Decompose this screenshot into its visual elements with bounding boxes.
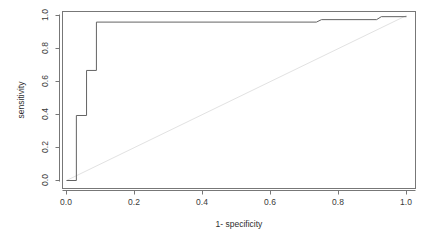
y-tick-label-4: 0.8 xyxy=(40,42,50,54)
x-tick-label-3: 0.6 xyxy=(264,197,276,207)
y-tick-label-0: 0.0 xyxy=(40,174,50,186)
y-tick-label-5: 1.0 xyxy=(40,9,50,21)
plot-canvas: 0.0 0.2 0.4 0.6 0.8 1.0 0.0 0.2 0.4 0.6 … xyxy=(0,0,434,236)
x-tick-label-5: 1.0 xyxy=(400,197,412,207)
x-tick-label-0: 0.0 xyxy=(60,197,72,207)
x-tick-labels: 0.0 0.2 0.4 0.6 0.8 1.0 xyxy=(60,197,412,207)
x-tick-label-4: 0.8 xyxy=(332,197,344,207)
y-axis-title: sensitivity xyxy=(16,81,26,119)
y-tick-label-2: 0.4 xyxy=(40,108,50,120)
plot-frame-box xyxy=(63,12,416,189)
chance-reference-line xyxy=(67,16,407,181)
y-tick-label-3: 0.6 xyxy=(40,75,50,87)
x-tick-label-1: 0.2 xyxy=(128,197,140,207)
roc-plot-figure: 0.0 0.2 0.4 0.6 0.8 1.0 0.0 0.2 0.4 0.6 … xyxy=(0,0,434,236)
y-tick-label-1: 0.2 xyxy=(40,141,50,153)
x-axis-title: 1- specificity xyxy=(216,219,264,229)
x-tick-label-2: 0.4 xyxy=(196,197,208,207)
x-axis-ticks xyxy=(67,191,407,195)
y-axis-ticks xyxy=(56,16,60,181)
y-tick-labels: 0.0 0.2 0.4 0.6 0.8 1.0 xyxy=(40,9,50,186)
